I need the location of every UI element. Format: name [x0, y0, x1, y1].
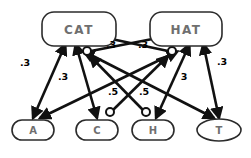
letter-node-t[interactable]: T [197, 119, 241, 141]
inhibition-dot-h[interactable] [142, 108, 150, 116]
letter-node-t-label: T [216, 125, 223, 136]
inhibition-dot-cat[interactable] [83, 47, 91, 55]
weight-label-layer: .3 .3 .3 .3 .5 .5 3 .3 [20, 39, 227, 97]
letter-node-h[interactable]: H [132, 120, 174, 140]
letter-node-h-label: H [149, 125, 157, 136]
inhibition-dot-c[interactable] [106, 108, 114, 116]
letter-node-a[interactable]: A [12, 120, 54, 140]
word-node-hat[interactable]: HAT [150, 12, 222, 46]
weight-label-left-outer: .3 [20, 57, 30, 68]
edge-h-inhibits-cat[interactable] [90, 56, 143, 110]
letter-node-c[interactable]: C [76, 120, 118, 140]
weight-label-right-inner: 3 [181, 71, 188, 82]
weight-label-mid-right: .5 [139, 86, 149, 97]
letter-node-a-label: A [29, 125, 37, 136]
weight-label-top-right: .3 [138, 39, 148, 50]
weight-label-top-left: .3 [106, 39, 116, 50]
word-node-hat-label: HAT [170, 23, 201, 37]
letter-node-c-label: C [93, 125, 100, 136]
weight-label-mid-left: .5 [108, 86, 118, 97]
weight-label-left-inner: .3 [58, 71, 68, 82]
network-diagram-svg: CAT HAT A C H T .3 .3 .3 .3 . [0, 0, 251, 158]
inhibition-dot-hat[interactable] [168, 47, 176, 55]
word-node-cat-label: CAT [64, 23, 94, 37]
edge-c-inhibits-hat[interactable] [113, 56, 168, 110]
diagram-canvas: CAT HAT A C H T .3 .3 .3 .3 . [0, 0, 251, 158]
weight-label-right-outer: .3 [217, 56, 227, 67]
